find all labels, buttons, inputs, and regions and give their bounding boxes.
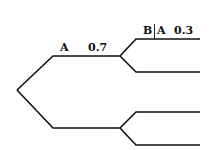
branch-not-b-given-not-a-line (120, 128, 200, 145)
branch-a-probability: 0.7 (88, 41, 107, 54)
branch-not-a-line (17, 90, 120, 128)
branch-not-b-given-a-line (120, 56, 200, 72)
branch-b-given-a-event: B (143, 24, 152, 37)
branch-b-given-a-line (120, 39, 200, 56)
branch-b-given-a-probability: 0.3 (174, 24, 193, 37)
probability-tree: A 0.7 B A 0.3 (0, 0, 216, 150)
branch-a-line (17, 56, 120, 90)
branch-b-given-a-condition: A (156, 24, 166, 37)
branch-b-given-not-a-line (120, 112, 200, 128)
branch-a-event-label: A (59, 41, 69, 54)
